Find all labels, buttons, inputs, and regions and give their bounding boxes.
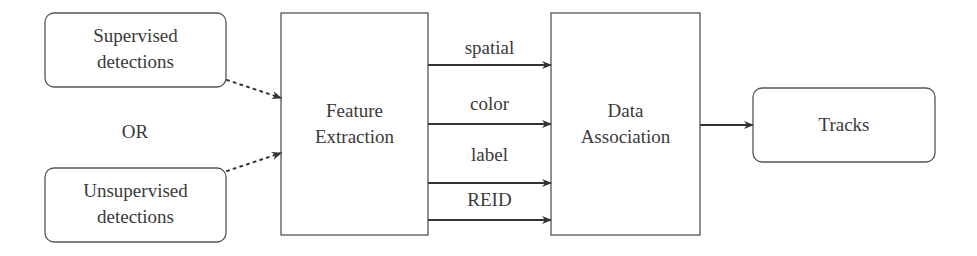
feature-extraction-line1: Feature xyxy=(281,98,428,124)
feature-label-label: label xyxy=(428,142,551,168)
feature-label-color: color xyxy=(428,91,551,117)
dotted-arrow-supervised xyxy=(227,80,281,98)
or-label: OR xyxy=(95,119,175,145)
data-association-label: Data Association xyxy=(551,98,700,150)
data-association-line2: Association xyxy=(551,124,700,150)
supervised-line1: Supervised xyxy=(45,23,226,49)
data-association-line1: Data xyxy=(551,98,700,124)
unsupervised-line2: detections xyxy=(45,204,226,230)
feature-extraction-line2: Extraction xyxy=(281,124,428,150)
unsupervised-label: Unsupervised detections xyxy=(45,178,226,230)
supervised-label: Supervised detections xyxy=(45,23,226,75)
supervised-line2: detections xyxy=(45,49,226,75)
unsupervised-line1: Unsupervised xyxy=(45,178,226,204)
feature-extraction-label: Feature Extraction xyxy=(281,98,428,150)
feature-label-spatial: spatial xyxy=(428,35,551,61)
feature-label-reid: REID xyxy=(428,187,551,213)
dotted-arrow-unsupervised xyxy=(227,153,281,171)
tracks-label: Tracks xyxy=(753,112,935,138)
